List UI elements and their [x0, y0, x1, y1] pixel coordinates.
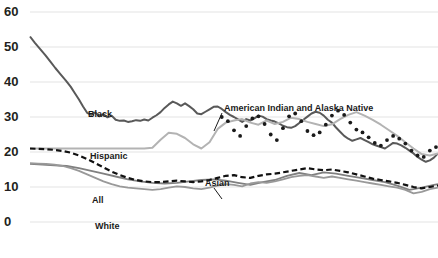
data-point [385, 138, 389, 142]
chart-container: 6050403020100BlackHispanicAmerican India… [0, 0, 438, 258]
data-point [410, 149, 414, 153]
data-point [238, 134, 242, 138]
data-point [379, 144, 383, 148]
series-line [30, 37, 438, 162]
data-point [416, 154, 420, 158]
data-point [367, 135, 371, 139]
annotation-leader-line [214, 188, 222, 199]
data-point [434, 145, 438, 149]
series-label-all: All [92, 196, 104, 205]
y-axis-tick-label: 50 [4, 40, 18, 53]
data-point [269, 133, 273, 137]
data-point [391, 134, 395, 138]
data-point [330, 114, 334, 118]
data-point [355, 128, 359, 132]
data-point [397, 137, 401, 141]
data-point [324, 123, 328, 127]
y-axis-tick-label: 0 [4, 215, 11, 228]
data-point [342, 113, 346, 117]
y-axis-tick-label: 60 [4, 5, 18, 18]
line-chart-plot [0, 0, 438, 258]
series-label-hispanic: Hispanic [90, 152, 128, 161]
series-label-asian: Asian [205, 179, 230, 188]
data-point [250, 117, 254, 121]
data-point [244, 124, 248, 128]
data-point [403, 142, 407, 146]
data-point [257, 114, 261, 118]
y-axis-tick-label: 20 [4, 145, 18, 158]
data-point [232, 128, 236, 132]
data-point [299, 119, 303, 123]
data-point [275, 138, 279, 142]
data-point [318, 131, 322, 135]
data-point [361, 131, 365, 135]
data-point [422, 155, 426, 159]
y-axis-tick-label: 40 [4, 75, 18, 88]
data-point [226, 119, 230, 123]
data-point [287, 114, 291, 118]
data-point [281, 126, 285, 130]
data-point [373, 141, 377, 145]
series-line [30, 163, 438, 193]
y-axis-tick-label: 30 [4, 110, 18, 123]
data-point [312, 133, 316, 137]
series-label-american-indian-and-alaska-native: American Indian and Alaska Native [224, 104, 373, 113]
y-axis-tick-label: 10 [4, 180, 18, 193]
data-point [348, 121, 352, 125]
data-point [428, 149, 432, 153]
series-label-white: White [95, 222, 120, 231]
data-point [306, 129, 310, 133]
series-label-black: Black [88, 110, 112, 119]
data-point [263, 122, 267, 126]
